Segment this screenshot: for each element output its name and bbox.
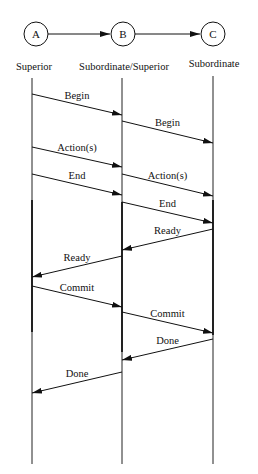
role-label: Subordinate: [189, 58, 240, 69]
role-labels: SuperiorSubordinate/SuperiorSubordinate: [16, 58, 240, 72]
message-ready: Ready: [122, 225, 213, 251]
message-label: Ready: [64, 252, 92, 263]
node-a: A: [24, 22, 48, 46]
sequence-diagram: ABC SuperiorSubordinate/SuperiorSubordin…: [0, 0, 258, 474]
role-label: Superior: [16, 61, 53, 72]
role-label: Subordinate/Superior: [79, 61, 169, 72]
message-commit: Commit: [122, 308, 213, 334]
lifelines: [32, 76, 213, 464]
message-label: End: [69, 170, 87, 181]
node-c: C: [201, 22, 225, 46]
message-label: Action(s): [148, 170, 188, 182]
message-label: Commit: [150, 308, 185, 319]
message-end: End: [32, 170, 122, 196]
message-label: Ready: [154, 225, 182, 236]
message-label: Commit: [60, 282, 95, 293]
node-b: B: [111, 22, 135, 46]
message-end: End: [122, 198, 213, 224]
node-label: C: [209, 28, 216, 40]
message-label: Action(s): [57, 142, 97, 154]
message-commit: Commit: [32, 282, 122, 308]
node-label: A: [32, 28, 40, 40]
message-done: Done: [32, 368, 122, 394]
message-label: Done: [156, 335, 179, 346]
message-label: End: [159, 198, 177, 209]
message-done: Done: [122, 335, 213, 361]
message-ready: Ready: [32, 252, 122, 278]
message-action-s: Action(s): [122, 170, 213, 196]
message-label: Begin: [64, 90, 90, 101]
message-begin: Begin: [32, 90, 122, 116]
message-begin: Begin: [122, 117, 213, 143]
message-label: Begin: [155, 117, 181, 128]
message-label: Done: [66, 368, 89, 379]
node-label: B: [119, 28, 126, 40]
message-action-s: Action(s): [32, 142, 122, 167]
